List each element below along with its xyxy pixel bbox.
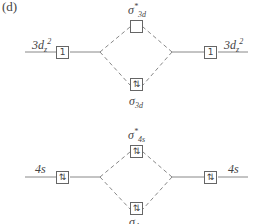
bonding-box-4s: ⇅ [130, 202, 143, 215]
ao-label-sub: z [44, 45, 47, 54]
left-ao-label-4s: 4s [35, 163, 46, 175]
left-ao-box-3d: 1 [56, 46, 69, 59]
mo-sub: 3d [138, 10, 146, 19]
dash-right-down-3d [143, 52, 172, 85]
antibonding-box-3d [130, 20, 143, 33]
antibonding-label-3d: σ*3d [128, 3, 146, 19]
dash-left-down-4s [100, 177, 130, 209]
mo-sub: 4s [138, 135, 145, 144]
ao-label-main: 3d [224, 38, 236, 52]
bonding-label-4s: σ4s [129, 216, 142, 224]
right-ao-box-4s: ⇅ [204, 171, 217, 184]
bonding-box-3d: ⇅ [130, 78, 143, 91]
dash-left-up-4s [100, 152, 130, 177]
dash-left-up-3d [100, 27, 130, 52]
right-ao-label-4s: 4s [228, 163, 239, 175]
dash-right-down-4s [143, 177, 172, 209]
left-ao-box-4s: ⇅ [56, 171, 69, 184]
ao-label-sub: z [236, 45, 239, 54]
antibonding-box-4s: ⇅ [130, 145, 143, 158]
ao-label-main: 3d [32, 38, 44, 52]
dash-left-down-3d [100, 52, 130, 85]
antibonding-label-4s: σ*4s [128, 128, 145, 144]
mo-diagram-lines [0, 0, 267, 224]
right-ao-label-3d: 3dz2 [224, 38, 243, 54]
left-ao-label-3d: 3dz2 [32, 38, 51, 54]
ao-label-sup: 2 [47, 37, 51, 46]
panel-label: (d) [2, 0, 17, 13]
bonding-label-3d: σ3d [129, 95, 143, 110]
dash-right-up-4s [143, 152, 172, 177]
ao-label-sup: 2 [239, 37, 243, 46]
right-ao-box-3d: 1 [204, 46, 217, 59]
mo-sub: 4s [135, 222, 142, 224]
dash-right-up-3d [143, 27, 172, 52]
mo-sub: 3d [135, 101, 143, 110]
